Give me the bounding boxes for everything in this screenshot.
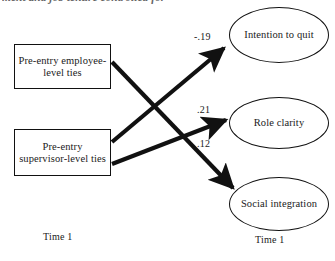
time-label-left: Time 1 bbox=[43, 231, 72, 242]
path-coefficient-supervisor-to-role: .21 bbox=[197, 104, 210, 115]
node-ellipse-social-integration: Social integration bbox=[229, 177, 329, 231]
path-coefficient-employee-to-social: .12 bbox=[197, 138, 210, 149]
node-ellipse-intention-label: Intention to quit bbox=[244, 29, 313, 41]
node-ellipse-role-clarity: Role clarity bbox=[229, 97, 329, 149]
node-ellipse-intention-to-quit: Intention to quit bbox=[229, 7, 329, 63]
time-label-right: Time 1 bbox=[255, 234, 284, 245]
figure-canvas: ment and job tenure controlled for Pre-e… bbox=[0, 0, 335, 261]
node-box-pre-entry-employee-level-ties: Pre-entry employee-level ties bbox=[14, 44, 111, 89]
path-coefficient-supervisor-to-intention: -.19 bbox=[194, 31, 211, 42]
node-box-supervisor-label: Pre-entry supervisor-level ties bbox=[18, 141, 107, 165]
node-ellipse-role-label: Role clarity bbox=[254, 117, 304, 129]
node-box-employee-label: Pre-entry employee-level ties bbox=[18, 55, 107, 79]
node-ellipse-social-label: Social integration bbox=[241, 198, 317, 210]
node-box-pre-entry-supervisor-level-ties: Pre-entry supervisor-level ties bbox=[14, 129, 111, 176]
